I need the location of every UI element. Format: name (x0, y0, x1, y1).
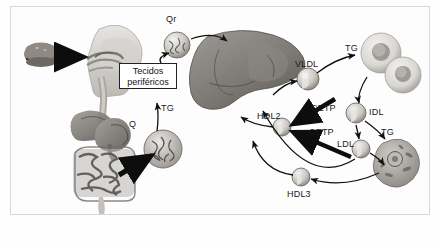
peripheral-cell-art (373, 139, 419, 187)
anatomy-artwork (11, 7, 429, 214)
hamburger-art (24, 43, 58, 68)
arrows-layer (59, 35, 385, 182)
arrow-liver-to-vldl (273, 81, 297, 95)
label-hdl2: HDL2 (257, 111, 281, 121)
arrow-remnant-to-liver (191, 35, 227, 41)
label-hdl3: HDL3 (287, 189, 311, 199)
label-tg-cell: TG (381, 127, 394, 137)
lipoprotein-metabolism-figure: Qr Q Tecidos periféricos TG VLDL TG IDL … (0, 0, 440, 247)
arrow-ldl-to-cell (370, 153, 384, 165)
arrow-hdl3-to-liver (253, 141, 293, 175)
particle-chylomicron (144, 130, 182, 168)
label-chylomicron-remnant: Qr (166, 14, 176, 24)
peripheral-tissues-line1: Tecidos (133, 66, 164, 76)
label-ldl: LDL (337, 139, 354, 149)
arrow-vldl-to-adipocytes (317, 55, 355, 73)
liver-art (189, 30, 305, 109)
label-vldl: VLDL (295, 59, 318, 69)
arrow-cell-to-hdl3 (311, 173, 379, 183)
digestive-art (71, 110, 136, 214)
arrow-chylomicron-to-tissues (157, 103, 158, 131)
particle-ldl (352, 140, 370, 158)
label-cetp-lower: CETP (309, 127, 334, 137)
label-idl: IDL (369, 107, 384, 117)
particle-idl (346, 103, 366, 123)
particle-vldl (297, 68, 319, 90)
arrow-adipocytes-to-idl (359, 77, 367, 103)
adipocytes-art (361, 33, 421, 93)
arrow-idl-to-ldl (356, 125, 359, 139)
particle-chylomicron-remnant (164, 32, 190, 58)
particle-hdl3 (292, 168, 310, 186)
label-tg-adipocyte: TG (345, 43, 358, 53)
peripheral-tissues-box: Tecidos periféricos (119, 63, 177, 89)
label-cetp-upper: CETP (311, 103, 336, 113)
diagram-plate: Qr Q Tecidos periféricos TG VLDL TG IDL … (10, 6, 430, 215)
arrow-intestine-to-chylomicron (119, 157, 149, 175)
label-chylomicron: Q (129, 119, 136, 129)
peripheral-tissues-line2: periféricos (127, 77, 169, 87)
label-tg-intestine: TG (161, 103, 174, 113)
